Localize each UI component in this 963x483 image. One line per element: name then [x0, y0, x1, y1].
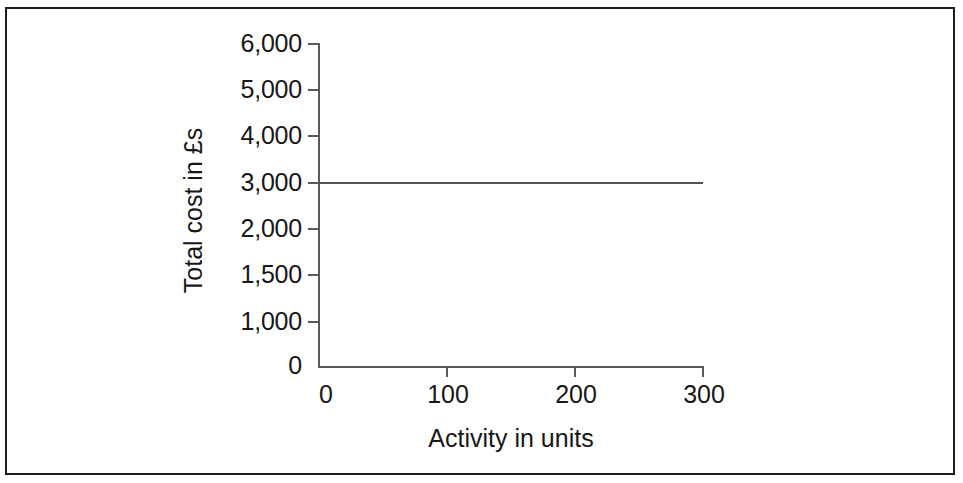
x-tick-label-100: 100 [403, 382, 493, 407]
y-tick-mark-2000 [308, 228, 319, 230]
y-tick-label-3000: 3,000 [240, 170, 302, 195]
y-tick-mark-3000 [308, 182, 319, 184]
y-tick-mark-5000 [308, 89, 319, 91]
y-tick-label-1500: 1,500 [240, 262, 302, 287]
chart-figure: 6,000 5,000 4,000 3,000 2,000 1,500 1,00… [0, 0, 963, 483]
x-tick-label-200: 200 [531, 382, 621, 407]
y-tick-mark-1000 [308, 321, 319, 323]
y-tick-label-0: 0 [288, 353, 302, 378]
x-tick-mark-300 [702, 366, 704, 377]
y-tick-label-1000: 1,000 [240, 309, 302, 334]
x-tick-mark-200 [574, 366, 576, 377]
y-axis-title: Total cost in £s [179, 46, 208, 376]
x-axis-title: Activity in units [319, 424, 703, 453]
y-tick-mark-1500 [308, 274, 319, 276]
y-tick-label-6000: 6,000 [240, 31, 302, 56]
y-tick-label-4000: 4,000 [240, 123, 302, 148]
x-tick-mark-100 [446, 366, 448, 377]
y-tick-mark-4000 [308, 135, 319, 137]
y-tick-mark-6000 [308, 43, 319, 45]
y-tick-label-2000: 2,000 [240, 216, 302, 241]
x-axis-line [318, 366, 704, 368]
x-tick-label-300: 300 [659, 382, 749, 407]
y-axis-line [318, 43, 320, 368]
x-tick-label-0: 0 [281, 382, 371, 407]
series-fixed-cost-line [319, 182, 703, 184]
y-tick-label-5000: 5,000 [240, 77, 302, 102]
